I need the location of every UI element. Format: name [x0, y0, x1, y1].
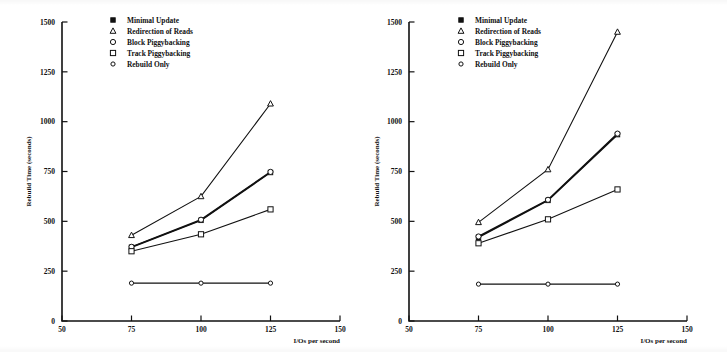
x-tick-label: 50 [58, 325, 66, 334]
x-tick-label: 50 [405, 325, 413, 334]
marker-0-2 [615, 29, 621, 34]
x-tick-label: 150 [334, 325, 346, 334]
y-tick-label: 0 [398, 317, 402, 326]
series-redirection-of-reads [476, 29, 621, 225]
legend-label: Rebuild Only [475, 60, 518, 69]
marker-2-2 [268, 169, 273, 174]
marker-2-1 [545, 197, 550, 202]
marker-4-2 [615, 282, 619, 286]
legend-label: Block Piggybacking [475, 38, 538, 47]
x-tick-label: 125 [265, 325, 277, 334]
marker-0-0 [476, 219, 482, 224]
series-block-piggybacking [129, 169, 273, 249]
marker-legend-4 [459, 62, 463, 66]
marker-0-2 [268, 101, 274, 106]
series-rebuild-only [476, 282, 619, 286]
x-tick-label: 75 [128, 325, 136, 334]
marker-0-0 [129, 232, 135, 237]
marker-legend-4 [111, 62, 115, 66]
series-minimal-update [129, 170, 272, 249]
series-line [132, 104, 271, 236]
legend: Minimal UpdateRedirection of ReadsBlock … [458, 16, 541, 69]
marker-legend-1 [458, 28, 464, 33]
plot-area-left: 02505007501000125015005075100125150I/Os … [0, 0, 363, 352]
series-line [132, 209, 271, 251]
y-axis-title: Rebuild Time (seconds) [25, 136, 33, 207]
legend-label: Minimal Update [475, 16, 528, 25]
marker-3-2 [268, 207, 273, 212]
marker-2-1 [198, 217, 203, 222]
x-tick-label: 125 [612, 325, 624, 334]
series-track-piggybacking [129, 207, 273, 254]
marker-4-0 [129, 281, 133, 285]
legend: Minimal UpdateRedirection of ReadsBlock … [110, 16, 193, 69]
marker-3-0 [129, 249, 134, 254]
marker-legend-2 [110, 39, 115, 44]
y-tick-label: 1250 [40, 68, 55, 77]
series-rebuild-only [129, 281, 272, 285]
marker-legend-0 [111, 18, 115, 22]
chart-panel-left: 02505007501000125015005075100125150I/Os … [0, 0, 363, 352]
legend-label: Track Piggybacking [127, 49, 191, 58]
marker-legend-1 [110, 28, 116, 33]
marker-0-1 [545, 166, 551, 171]
x-axis-title: I/Os per second [293, 337, 340, 345]
y-tick-label: 750 [44, 167, 56, 176]
marker-4-1 [199, 281, 203, 285]
marker-2-2 [615, 131, 620, 136]
marker-4-1 [546, 282, 550, 286]
plot-area-right: 02505007501000125015005075100125150I/Os … [363, 0, 727, 352]
series-track-piggybacking [476, 187, 620, 246]
marker-legend-3 [110, 50, 115, 55]
y-tick-label: 0 [51, 317, 55, 326]
y-tick-label: 1500 [40, 18, 55, 27]
y-tick-label: 500 [391, 217, 403, 226]
marker-3-1 [545, 217, 550, 222]
legend-label: Redirection of Reads [127, 27, 193, 36]
marker-2-0 [476, 234, 481, 239]
marker-4-0 [476, 282, 480, 286]
two-panel-line-chart-figure: 02505007501000125015005075100125150I/Os … [0, 0, 727, 352]
x-tick-label: 100 [195, 325, 207, 334]
y-tick-label: 250 [44, 267, 56, 276]
y-tick-label: 1500 [387, 18, 402, 27]
x-axis-title: I/Os per second [640, 337, 687, 345]
series-minimal-update [476, 132, 619, 239]
y-tick-label: 1000 [387, 117, 402, 126]
marker-legend-3 [458, 50, 463, 55]
chart-panel-right: 02505007501000125015005075100125150I/Os … [363, 0, 727, 352]
marker-legend-2 [458, 39, 463, 44]
y-tick-label: 750 [391, 167, 403, 176]
y-tick-label: 500 [44, 217, 56, 226]
legend-label: Redirection of Reads [475, 27, 541, 36]
marker-3-0 [476, 241, 481, 246]
x-tick-label: 100 [542, 325, 554, 334]
marker-3-1 [198, 232, 203, 237]
legend-label: Rebuild Only [127, 60, 170, 69]
y-tick-label: 1250 [387, 68, 402, 77]
marker-legend-0 [459, 18, 463, 22]
legend-label: Minimal Update [127, 16, 180, 25]
y-tick-label: 250 [391, 267, 403, 276]
axis-lines [62, 22, 340, 321]
y-axis-title: Rebuild Time (seconds) [373, 136, 381, 207]
legend-label: Block Piggybacking [127, 38, 190, 47]
legend-label: Track Piggybacking [475, 49, 539, 58]
y-tick-label: 1000 [40, 117, 55, 126]
marker-4-2 [268, 281, 272, 285]
marker-3-2 [615, 187, 620, 192]
series-block-piggybacking [476, 131, 620, 239]
x-tick-label: 150 [681, 325, 693, 334]
x-tick-label: 75 [475, 325, 483, 334]
